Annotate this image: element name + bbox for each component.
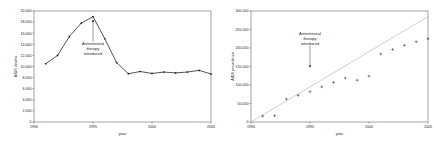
data-point <box>332 81 335 84</box>
plot-frame <box>34 11 211 122</box>
x-tick-label: 2005 <box>424 125 432 129</box>
y-tick-label: 4,000 <box>22 98 31 102</box>
y-tick-label: 18,000 <box>20 20 31 24</box>
data-point <box>380 53 383 56</box>
y-tick-label: 250,000 <box>235 28 248 32</box>
x-tick-label: 1995 <box>89 125 97 129</box>
data-point <box>210 73 212 75</box>
y-tick-label: 2,000 <box>22 109 31 113</box>
data-point <box>198 70 200 72</box>
plot-frame <box>251 11 428 122</box>
data-point <box>139 71 141 73</box>
y-tick-label: 12,000 <box>20 54 31 58</box>
aids-deaths-chart: 02,0004,0006,0008,00010,00012,00014,0001… <box>0 0 217 144</box>
y-tick-label: 10,000 <box>20 65 31 69</box>
panel-aids-deaths: 02,0004,0006,0008,00010,00012,00014,0001… <box>0 0 217 144</box>
data-point <box>45 63 47 65</box>
data-point <box>403 44 406 47</box>
annotation: Antiretroviraltherapyintroduced <box>299 31 321 68</box>
y-tick-label: 6,000 <box>22 87 31 91</box>
data-point <box>391 48 394 51</box>
x-axis-title: year <box>336 132 344 136</box>
data-point <box>104 38 106 40</box>
panel-aids-prevalence: 050,000100,000150,000200,000250,000300,0… <box>217 0 434 144</box>
data-point <box>116 62 118 64</box>
x-tick-label: 1990 <box>30 125 38 129</box>
x-tick-label: 1995 <box>306 125 314 129</box>
annotation: Antiretroviraltherapyintroduced <box>82 20 104 56</box>
x-tick-label: 2005 <box>207 125 215 129</box>
data-point <box>128 73 130 75</box>
y-tick-label: 100,000 <box>235 83 248 87</box>
y-axis-title: AIDS prevalence <box>231 52 235 81</box>
y-tick-label: 8,000 <box>22 76 31 80</box>
data-point <box>344 77 347 80</box>
y-tick-label: 300,000 <box>235 9 248 13</box>
data-line <box>46 17 211 74</box>
x-tick-label: 1990 <box>247 125 255 129</box>
y-tick-label: 50,000 <box>237 102 248 106</box>
y-tick-label: 200,000 <box>235 46 248 50</box>
aids-prevalence-chart: 050,000100,000150,000200,000250,000300,0… <box>217 0 434 144</box>
annotation-arrow-head <box>309 65 311 67</box>
y-axis-title: AIDS deaths <box>14 56 18 77</box>
x-tick-label: 2000 <box>365 125 373 129</box>
data-point <box>187 71 189 73</box>
y-tick-label: 150,000 <box>235 65 248 69</box>
data-point <box>175 72 177 74</box>
data-point <box>69 36 71 38</box>
data-point <box>151 73 153 75</box>
trend-line <box>251 17 428 122</box>
data-point <box>356 79 359 82</box>
two-panel-figure: 02,0004,0006,0008,00010,00012,00014,0001… <box>0 0 434 144</box>
data-point <box>415 40 418 43</box>
data-point <box>309 90 312 93</box>
data-point <box>80 22 82 24</box>
y-tick-label: 20,000 <box>20 9 31 13</box>
annotation-line: introduced <box>84 51 102 56</box>
data-point <box>273 114 276 117</box>
y-tick-label: 14,000 <box>20 43 31 47</box>
data-point <box>427 37 430 40</box>
data-point <box>57 55 59 57</box>
data-point <box>321 86 324 89</box>
annotation-arrow-head <box>92 20 94 22</box>
data-point <box>368 75 371 78</box>
x-axis-title: year <box>119 132 127 136</box>
y-tick-label: 16,000 <box>20 32 31 36</box>
x-tick-label: 2000 <box>148 125 156 129</box>
data-point <box>92 16 94 18</box>
annotation-line: introduced <box>301 41 319 46</box>
data-point <box>163 71 165 73</box>
